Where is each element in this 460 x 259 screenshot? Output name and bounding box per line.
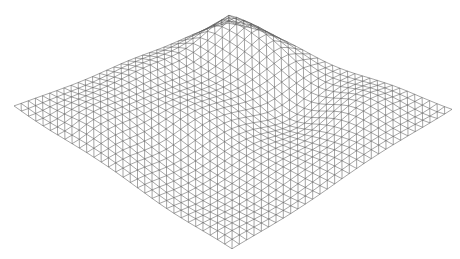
terrain-wireframe-canvas (0, 0, 460, 259)
mesh-lines (14, 15, 452, 249)
terrain-mesh (0, 0, 460, 259)
